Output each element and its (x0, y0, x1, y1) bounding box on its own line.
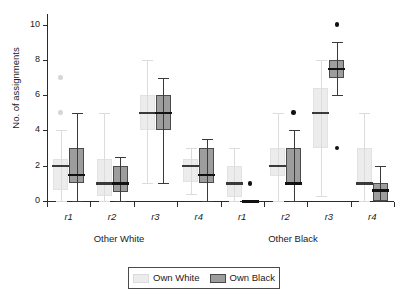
whisker-cap-bottom-own-white-3 (186, 194, 197, 195)
median-own-black-0 (68, 174, 85, 177)
median-own-black-2 (155, 112, 172, 115)
legend: Own White Own Black (128, 267, 280, 289)
median-own-black-4 (242, 200, 259, 203)
whisker-own-white-3 (191, 148, 192, 194)
whisker-cap-top-own-white-1 (99, 113, 110, 114)
whisker-own-black-3 (207, 139, 208, 201)
legend-entry-own-white: Own White (133, 273, 199, 283)
median-own-white-3 (182, 165, 199, 168)
whisker-cap-bottom-own-black-3 (202, 201, 213, 202)
x-tick-mark (264, 202, 265, 207)
whisker-cap-bottom-own-black-0 (72, 201, 83, 202)
median-own-white-1 (96, 182, 113, 185)
median-own-black-6 (328, 68, 345, 71)
median-own-white-2 (139, 112, 156, 115)
outlier-own-black-5-0 (291, 110, 296, 115)
whisker-own-white-4 (234, 148, 235, 201)
x-tick-label-r3-6: r3 (316, 212, 342, 222)
whisker-cap-bottom-own-white-6 (316, 196, 327, 197)
y-tick-label: 6 (14, 90, 40, 99)
x-tick-label-r1-4: r1 (229, 212, 255, 222)
legend-entry-own-black: Own Black (210, 273, 275, 283)
median-own-black-3 (198, 174, 215, 177)
group-label-other-white: Other White (59, 234, 179, 244)
x-tick-mark (47, 202, 48, 207)
group-label-other-black: Other Black (233, 234, 353, 244)
y-axis-title: No. of assignments (11, 8, 21, 168)
x-tick-mark (134, 202, 135, 207)
legend-label-own-white: Own White (153, 273, 199, 283)
whisker-cap-bottom-own-white-5 (273, 201, 284, 202)
whisker-cap-bottom-own-black-6 (332, 95, 343, 96)
outlier-own-black-6-0 (335, 22, 340, 27)
whisker-cap-bottom-own-black-1 (115, 201, 126, 202)
whisker-cap-top-own-white-4 (229, 148, 240, 149)
legend-swatch-own-black (210, 274, 226, 283)
median-own-white-6 (312, 112, 329, 115)
median-own-white-0 (52, 165, 69, 168)
whisker-cap-top-own-white-7 (359, 113, 370, 114)
whisker-cap-top-own-black-1 (115, 157, 126, 158)
whisker-own-black-0 (77, 113, 78, 201)
y-tick-label: 4 (14, 125, 40, 134)
whisker-cap-bottom-own-black-7 (375, 201, 386, 202)
x-tick-mark (394, 202, 395, 207)
whisker-own-white-2 (147, 60, 148, 183)
whisker-own-white-6 (321, 60, 322, 196)
whisker-own-black-7 (380, 166, 381, 201)
x-tick-label-r2-1: r2 (99, 212, 125, 222)
median-own-white-4 (226, 182, 243, 185)
whisker-cap-top-own-white-2 (142, 60, 153, 61)
y-tick-label: 0 (14, 196, 40, 205)
whisker-own-white-1 (104, 113, 105, 201)
median-own-black-5 (285, 182, 302, 185)
whisker-cap-top-own-black-6 (332, 42, 343, 43)
whisker-own-black-2 (163, 78, 164, 184)
x-tick-label-r3-2: r3 (142, 212, 168, 222)
x-tick-mark (351, 202, 352, 207)
x-tick-mark (221, 202, 222, 207)
y-tick-label: 10 (14, 20, 40, 29)
median-own-white-5 (269, 165, 286, 168)
whisker-cap-bottom-own-white-0 (56, 201, 67, 202)
outlier-own-white-0-0 (58, 110, 63, 115)
x-tick-label-r4-7: r4 (359, 212, 385, 222)
median-own-black-7 (372, 189, 389, 192)
x-tick-label-r4-3: r4 (186, 212, 212, 222)
legend-label-own-black: Own Black (230, 273, 275, 283)
whisker-own-white-7 (364, 113, 365, 201)
whisker-cap-bottom-own-black-5 (289, 201, 300, 202)
whisker-cap-top-own-black-0 (72, 113, 83, 114)
whisker-cap-bottom-own-black-2 (158, 183, 169, 184)
whisker-cap-top-own-black-2 (158, 78, 169, 79)
boxplot-chart: No. of assignments 0246810 r1r2r3r4r1r2r… (0, 0, 406, 302)
whisker-cap-top-own-white-6 (316, 60, 327, 61)
plot-area (47, 14, 394, 201)
x-tick-mark (307, 202, 308, 207)
y-tick-label: 8 (14, 55, 40, 64)
whisker-cap-bottom-own-white-1 (99, 201, 110, 202)
whisker-cap-top-own-white-0 (56, 130, 67, 131)
x-tick-mark (90, 202, 91, 207)
y-tick-label: 2 (14, 161, 40, 170)
whisker-cap-top-own-black-5 (289, 130, 300, 131)
whisker-own-black-1 (120, 157, 121, 201)
x-tick-mark (177, 202, 178, 207)
whisker-cap-top-own-white-3 (186, 148, 197, 149)
median-own-white-7 (356, 182, 373, 185)
x-tick-label-r1-0: r1 (56, 212, 82, 222)
whisker-cap-top-own-black-3 (202, 139, 213, 140)
whisker-cap-bottom-own-white-2 (142, 183, 153, 184)
outlier-own-black-6-1 (335, 146, 340, 151)
whisker-own-black-5 (294, 130, 295, 201)
legend-swatch-own-white (133, 274, 149, 283)
whisker-cap-bottom-own-white-4 (229, 201, 240, 202)
median-own-black-1 (112, 182, 129, 185)
whisker-cap-top-own-white-5 (273, 113, 284, 114)
whisker-cap-bottom-own-white-7 (359, 201, 370, 202)
outlier-own-black-4-0 (248, 181, 253, 186)
whisker-cap-top-own-black-7 (375, 166, 386, 167)
x-tick-label-r2-5: r2 (273, 212, 299, 222)
whisker-own-white-5 (278, 113, 279, 201)
outlier-own-white-0-1 (58, 75, 63, 80)
